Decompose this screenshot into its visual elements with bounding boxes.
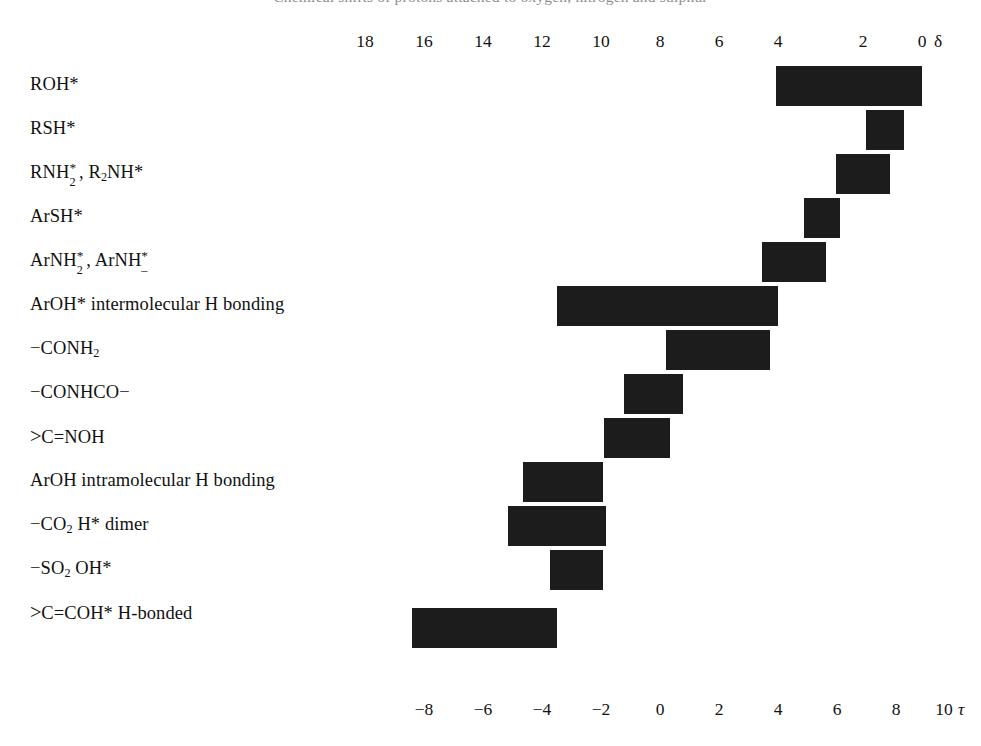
row-co2h: −CO2 H* dimer (0, 502, 981, 546)
tau-tick-minus2: −2 (592, 698, 611, 720)
row-rsh: RSH* (0, 106, 981, 150)
clipped-caption: Chemical shifts of protons attached to o… (0, 0, 981, 6)
row-arnh2: ArNH*2, ArNH*– (0, 238, 981, 282)
bar-conh2 (666, 330, 770, 370)
delta-tick-4: 4 (774, 30, 783, 52)
tau-tick-0: 0 (656, 698, 665, 720)
row-label-roh: ROH* (30, 62, 79, 106)
bar-arsh (804, 198, 840, 238)
tau-tick-4: 4 (774, 698, 783, 720)
tau-tick-8: 8 (892, 698, 901, 720)
tau-tick-6: 6 (833, 698, 842, 720)
row-aroh-inter: ArOH* intermolecular H bonding (0, 282, 981, 326)
delta-tick-10: 10 (592, 30, 610, 52)
gt-symbol-ccoh: > (30, 601, 41, 623)
row-roh: ROH* (0, 62, 981, 106)
bar-rnh2 (836, 154, 890, 194)
bar-rsh (866, 110, 904, 150)
delta-tick-2: 2 (859, 30, 868, 52)
row-label-arsh: ArSH* (30, 194, 83, 238)
delta-tick-8: 8 (656, 30, 665, 52)
tau-tick-minus6: −6 (474, 698, 493, 720)
row-rnh2: RNH*2, R2NH* (0, 150, 981, 194)
tau-axis: −8 −6 −4 −2 0 2 4 6 8 10 τ (0, 698, 981, 720)
delta-tick-12: 12 (533, 30, 551, 52)
row-label-cnoh: >C=NOH (30, 414, 105, 458)
rnh2-part-b: , R (79, 162, 101, 182)
row-aroh-intra: ArOH intramolecular H bonding (0, 458, 981, 502)
row-label-aroh-inter: ArOH* intermolecular H bonding (30, 282, 284, 326)
row-label-aroh-intra: ArOH intramolecular H bonding (30, 458, 275, 502)
tau-tick-minus4: −4 (533, 698, 552, 720)
bar-so2oh (550, 550, 603, 590)
conh2-part-a: −CONH (30, 338, 93, 358)
delta-axis: 18 16 14 12 10 8 6 4 2 0 δ (0, 30, 981, 52)
arnh2-part-a: ArNH (30, 250, 77, 270)
bar-arnh2 (762, 242, 826, 282)
rnh2-part-c: NH* (107, 162, 143, 182)
co2h-part-b: H* dimer (77, 514, 148, 534)
bar-aroh-inter (557, 286, 778, 326)
row-label-ccoh: >C=COH* H-bonded (30, 590, 192, 634)
bar-ccoh (412, 608, 557, 648)
row-label-co2h: −CO2 H* dimer (30, 502, 149, 546)
delta-tick-18: 18 (356, 30, 374, 52)
delta-tick-16: 16 (415, 30, 433, 52)
row-label-arnh2: ArNH*2, ArNH*– (30, 238, 151, 282)
cnoh-part-a: C=NOH (41, 427, 104, 447)
bar-conhco (624, 374, 683, 414)
tau-tick-2: 2 (715, 698, 724, 720)
chemical-shift-chart: Chemical shifts of protons attached to o… (0, 0, 981, 746)
delta-tick-14: 14 (474, 30, 492, 52)
row-label-conhco: −CONHCO− (30, 370, 130, 414)
delta-unit-symbol: δ (934, 30, 942, 52)
row-ccoh: >C=COH* H-bonded (0, 590, 981, 634)
row-label-rnh2: RNH*2, R2NH* (30, 150, 143, 194)
bar-roh (776, 66, 922, 106)
row-arsh: ArSH* (0, 194, 981, 238)
row-cnoh: >C=NOH (0, 414, 981, 458)
row-conhco: −CONHCO− (0, 370, 981, 414)
gt-symbol-cnoh: > (30, 425, 41, 447)
ccoh-part-a: C=COH* H-bonded (41, 603, 192, 623)
row-so2oh: −SO2 OH* (0, 546, 981, 590)
tau-tick-10: 10 (935, 698, 953, 720)
tau-tick-minus8: −8 (415, 698, 434, 720)
row-conh2: −CONH2 (0, 326, 981, 370)
bar-cnoh (604, 418, 670, 458)
arnh2-part-b: , ArNH (86, 250, 141, 270)
bar-co2h (508, 506, 606, 546)
bar-aroh-intra (523, 462, 603, 502)
delta-tick-0: 0 (918, 30, 927, 52)
row-label-so2oh: −SO2 OH* (30, 546, 112, 590)
rnh2-part-a: RNH (30, 162, 69, 182)
tau-unit-symbol: τ (958, 698, 964, 720)
co2h-part-a: −CO (30, 514, 66, 534)
so2oh-part-a: −SO (30, 558, 64, 578)
delta-tick-6: 6 (715, 30, 724, 52)
so2oh-part-b: OH* (75, 558, 111, 578)
row-label-rsh: RSH* (30, 106, 76, 150)
row-label-conh2: −CONH2 (30, 326, 100, 370)
